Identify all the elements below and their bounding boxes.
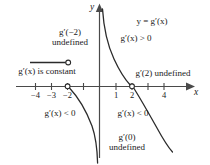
g-prime-negative-right-label: g′(x) < 0 <box>117 108 148 118</box>
y-axis <box>96 4 103 159</box>
g-prime-minus2-undefined-line2: undefined <box>52 37 88 47</box>
g-prime-0-undefined-line2: undefined <box>109 142 145 152</box>
g-prime-negative-left-label: g′(x) < 0 <box>44 108 75 118</box>
x-axis <box>16 83 195 91</box>
g-prime-0-undefined-line1: g′(0) <box>109 132 145 142</box>
x-tick-label-1: 1 <box>114 91 118 100</box>
x-tick-label-minus3: −3 <box>47 91 56 100</box>
g-prime-minus2-undefined-label: g′(−2) undefined <box>52 27 88 47</box>
g-prime-positive-label: g′(x) > 0 <box>120 33 151 43</box>
derivative-graph-figure: y x −4 −3 −2 1 2 4 y = g′(x) g′(−2) unde… <box>0 0 210 165</box>
curve-equation-label: y = g′(x) <box>136 16 167 26</box>
x-tick-label-minus2: −2 <box>63 91 72 100</box>
g-prime-minus2-undefined-line1: g′(−2) <box>52 27 88 37</box>
g-prime-2-undefined-label: g′(2) undefined <box>135 68 190 78</box>
y-axis-label: y <box>90 2 94 12</box>
graph-canvas <box>0 0 210 165</box>
x-tick-label-4: 4 <box>162 91 166 100</box>
upper-right-branch-curve <box>103 9 131 85</box>
x-axis-label: x <box>194 87 198 97</box>
constant-branch-curve <box>30 60 71 65</box>
x-tick-label-2: 2 <box>130 91 134 100</box>
g-prime-constant-label: g′(x) is constant <box>18 66 75 76</box>
g-prime-0-undefined-label: g′(0) undefined <box>109 132 145 152</box>
x-tick-label-minus4: −4 <box>31 91 40 100</box>
